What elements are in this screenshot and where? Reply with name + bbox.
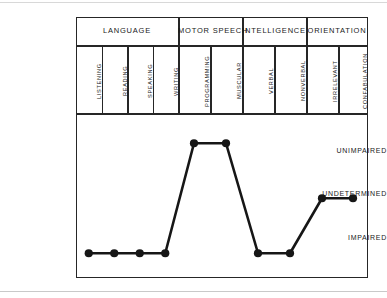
data-point: NONVERBAL: IMPAIRED xyxy=(286,249,294,257)
column-header-confabulation: CONFABULATION xyxy=(338,45,368,113)
column-header-listening: LISTENING xyxy=(76,45,102,113)
group-header-intelligence: INTELLIGENCE xyxy=(242,17,306,45)
column-header-reading: READING xyxy=(102,45,128,113)
data-point: WRITING: IMPAIRED xyxy=(161,249,169,257)
data-point: SPEAKING: IMPAIRED xyxy=(136,249,144,257)
scan-artifact-top xyxy=(0,2,387,3)
data-point: CONFABULATION: UNDETERMINED xyxy=(349,194,357,202)
series-markers: LISTENING: IMPAIREDREADING: IMPAIREDSPEA… xyxy=(85,139,357,257)
group-header-orientation: ORIENTATION xyxy=(306,17,368,45)
series-line xyxy=(89,143,353,253)
data-series-plot: LISTENING: IMPAIREDREADING: IMPAIREDSPEA… xyxy=(76,113,368,278)
data-point: LISTENING: IMPAIRED xyxy=(85,249,93,257)
column-header-programming: PROGRAMMING xyxy=(178,45,210,113)
data-point: IRRELEVANT: UNDETERMINED xyxy=(318,194,326,202)
data-point: VERBAL: IMPAIRED xyxy=(254,249,262,257)
column-header-verbal: VERBAL xyxy=(242,45,274,113)
group-header-language: LANGUAGE xyxy=(76,17,178,45)
column-header-muscular: MUSCULAR xyxy=(210,45,242,113)
column-header-speaking: SPEAKING xyxy=(127,45,153,113)
scan-artifact-bottom xyxy=(0,291,387,292)
group-header-motor-speech: MOTOR SPEECH xyxy=(178,17,242,45)
figure-canvas: LANGUAGE MOTOR SPEECH INTELLIGENCE ORIEN… xyxy=(0,0,387,298)
data-point: MUSCULAR: UNIMPAIRED xyxy=(222,139,230,147)
column-header-nonverbal: NONVERBAL xyxy=(274,45,306,113)
data-point: READING: IMPAIRED xyxy=(110,249,118,257)
column-header-writing: WRITING xyxy=(153,45,179,113)
data-point: PROGRAMMING: UNIMPAIRED xyxy=(190,139,198,147)
column-header-irrelevant: IRRELEVANT xyxy=(306,45,338,113)
